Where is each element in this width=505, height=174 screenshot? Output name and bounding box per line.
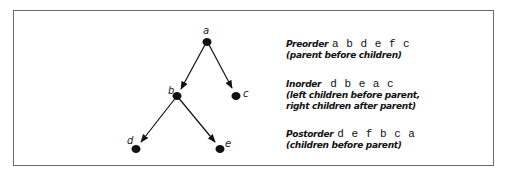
node-label-b: b (168, 86, 174, 96)
legend-postorder: Postorderd e f b c a (children before pa… (286, 128, 415, 151)
node-a (203, 38, 212, 46)
edges (141, 41, 232, 142)
preorder-desc: (parent before children) (286, 50, 410, 61)
edge-a-c (207, 41, 232, 88)
inorder-title: Inorder (286, 79, 321, 89)
preorder-title: Preorder (286, 39, 328, 49)
node-label-e: e (225, 139, 231, 149)
node-c (232, 92, 241, 100)
node-label-c: c (243, 89, 249, 99)
edge-a-b (181, 41, 207, 89)
node-label-a: a (203, 26, 209, 36)
inorder-desc-2: right children after parent) (286, 101, 420, 112)
edge-b-d (141, 96, 177, 142)
postorder-sequence: d e f b c a (337, 128, 415, 140)
legend-preorder: Preordera b d e f c (parent before child… (286, 38, 410, 61)
preorder-sequence: a b d e f c (332, 38, 410, 50)
tree-diagram (0, 0, 505, 174)
edge-b-e (177, 96, 215, 142)
inorder-sequence: d b e a c (330, 78, 394, 90)
legend-inorder: Inorderd b e a c (left children before p… (286, 78, 420, 112)
node-label-d: d (127, 136, 133, 146)
node-d (132, 145, 141, 153)
postorder-title: Postorder (286, 129, 333, 139)
nodes (132, 38, 241, 153)
postorder-desc: (children before parent) (286, 140, 415, 151)
inorder-desc-1: (left children before parent, (286, 90, 420, 101)
node-e (216, 145, 225, 153)
